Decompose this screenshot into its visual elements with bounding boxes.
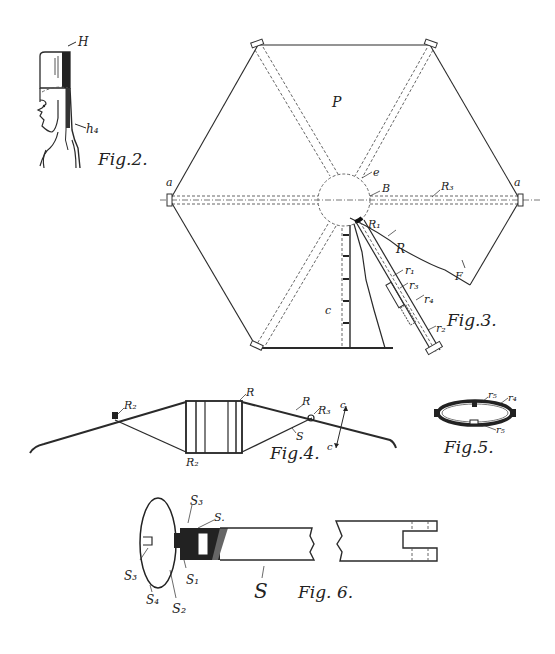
fig4-label-c-top: c bbox=[340, 399, 346, 410]
fig4-label-r2-left: R₂ bbox=[123, 399, 137, 412]
fig6-label-s4: S₄ bbox=[146, 593, 159, 607]
fig3-hexagon-parasol: P a a e B R₃ R₁ R r₁ r₃ r₄ r₂ c F Fig.3. bbox=[160, 39, 540, 355]
fig4-side-view: R₂ R R₂ R R₃ S c c Fig.4. bbox=[30, 386, 396, 469]
fig6-caption: Fig. 6. bbox=[297, 582, 353, 602]
fig2-head-with-hat: H h₄ Fig.2. bbox=[38, 35, 148, 169]
fig3-label-r1-hub: R₁ bbox=[367, 218, 381, 231]
fig4-label-c-bottom: c bbox=[327, 441, 333, 452]
fig2-label-h: H bbox=[77, 35, 89, 49]
fig3-label-r3: r₃ bbox=[409, 279, 419, 292]
fig3-label-r1: r₁ bbox=[405, 264, 415, 277]
patent-drawing-sheet: H h₄ Fig.2. bbox=[0, 0, 555, 654]
fig5-label-r4: r₄ bbox=[508, 392, 517, 403]
fig3-label-a-right: a bbox=[514, 176, 521, 189]
fig3-label-e: e bbox=[373, 166, 380, 179]
fig4-label-r2-bottom: R₂ bbox=[185, 456, 199, 469]
fig3-label-p: P bbox=[331, 94, 342, 110]
fig5-caption: Fig.5. bbox=[443, 437, 494, 457]
fig3-label-r3-rib: R₃ bbox=[440, 180, 454, 193]
fig5-ring-section: r₅ r₄ r₅ Fig.5. bbox=[434, 389, 517, 457]
fig6-label-s3-left: S₃ bbox=[124, 569, 137, 583]
fig4-caption: Fig.4. bbox=[269, 443, 320, 463]
fig4-label-r-top: R bbox=[245, 386, 254, 399]
fig5-label-r5-bottom: r₅ bbox=[496, 424, 505, 435]
fig6-label-s-main: S bbox=[254, 579, 268, 603]
fig3-label-c: c bbox=[325, 304, 331, 317]
fig4-label-r3: R₃ bbox=[317, 404, 331, 417]
fig6-rib-end-detail: S₃ S. S₃ S₁ S₄ S₂ S Fig. 6. bbox=[124, 494, 437, 616]
fig2-label-h4: h₄ bbox=[86, 122, 99, 136]
fig3-label-f: F bbox=[454, 270, 463, 283]
fig5-label-r5-top: r₅ bbox=[488, 389, 497, 400]
fig3-label-r2: r₂ bbox=[436, 322, 446, 335]
fig6-label-s: S. bbox=[214, 511, 225, 524]
fig2-caption: Fig.2. bbox=[97, 149, 148, 169]
fig6-label-s3-top: S₃ bbox=[190, 494, 203, 508]
fig6-label-s2: S₂ bbox=[172, 601, 186, 616]
fig3-caption: Fig.3. bbox=[446, 310, 497, 330]
fig4-label-s: S bbox=[296, 430, 304, 443]
fig4-label-r-right: R bbox=[301, 395, 310, 408]
fig6-label-s1: S₁ bbox=[186, 573, 199, 587]
fig3-label-r: R bbox=[395, 242, 405, 256]
fig3-label-r4: r₄ bbox=[424, 293, 434, 306]
fig3-label-b: B bbox=[381, 182, 390, 195]
fig3-label-a-left: a bbox=[166, 176, 173, 189]
